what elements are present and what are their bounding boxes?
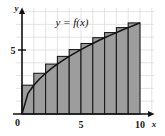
- riemann-bar: [69, 50, 81, 114]
- y-tick-label-5: 5: [11, 45, 16, 56]
- x-tick-label-0: 0: [15, 117, 20, 128]
- riemann-bar: [105, 33, 117, 114]
- x-axis-label: x: [151, 119, 157, 129]
- riemann-sum-figure: 5 0 5 10 y x y = f(x): [0, 0, 165, 136]
- riemann-bar: [57, 56, 69, 114]
- riemann-bar: [116, 28, 128, 114]
- x-tick-label-10: 10: [135, 119, 145, 130]
- riemann-bar: [93, 38, 105, 114]
- riemann-bar: [81, 44, 93, 115]
- x-tick-label-5: 5: [79, 119, 84, 130]
- riemann-bar: [128, 23, 140, 114]
- curve-label: y = f(x): [54, 16, 88, 29]
- riemann-sum-chart-svg: 5 0 5 10 y x y = f(x): [0, 0, 165, 136]
